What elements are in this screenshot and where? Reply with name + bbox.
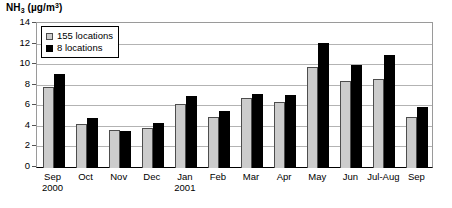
bar-dark xyxy=(384,55,395,168)
x-axis-label-month: Feb xyxy=(210,171,226,182)
y-axis-tick-mark xyxy=(32,166,36,167)
y-axis-tick-label: 10 xyxy=(0,58,30,68)
x-axis-label-month: Jan xyxy=(177,171,192,182)
bar-group xyxy=(335,23,368,168)
y-axis-tick-label: 0 xyxy=(0,161,30,171)
y-axis-tick-label: 12 xyxy=(0,38,30,48)
bar-dark xyxy=(285,95,296,168)
x-axis-tick-label: Sep xyxy=(394,171,439,182)
y-axis-title-unit-prefix: (µg/m xyxy=(25,2,55,13)
x-axis-label-year: 2001 xyxy=(162,182,207,193)
x-axis-label-month: May xyxy=(308,171,326,182)
y-axis-tick-label: 14 xyxy=(0,17,30,27)
bar-group xyxy=(136,23,169,168)
y-axis-title: NH3 (µg/m3) xyxy=(6,2,62,14)
x-axis-label-month: Jun xyxy=(343,171,358,182)
bar-dark xyxy=(153,123,164,168)
y-axis-title-species: NH xyxy=(6,2,21,13)
y-axis-tick-mark xyxy=(32,145,36,146)
x-axis-label-month: Mar xyxy=(243,171,259,182)
bar-light xyxy=(241,98,252,168)
legend-swatch-light xyxy=(46,33,53,40)
bar-light xyxy=(406,117,417,168)
bar-light xyxy=(274,102,285,168)
bar-dark xyxy=(54,74,65,168)
legend-swatch-dark xyxy=(46,45,53,52)
bar-group xyxy=(401,23,434,168)
bar-dark xyxy=(351,65,362,168)
legend-item: 8 locations xyxy=(46,42,113,54)
x-axis-label-year: 2000 xyxy=(30,182,75,193)
chart-figure: NH3 (µg/m3) 02468101214 Sep2000OctNovDec… xyxy=(0,0,452,208)
legend-label: 8 locations xyxy=(57,42,102,54)
bar-light xyxy=(175,104,186,168)
y-axis-tick-label: 6 xyxy=(0,99,30,109)
bar-dark xyxy=(219,111,230,168)
y-axis-title-unit-suffix: ) xyxy=(59,2,62,13)
x-axis-label-month: Dec xyxy=(143,171,160,182)
bar-light xyxy=(307,67,318,168)
x-axis-label-month: Apr xyxy=(277,171,292,182)
y-axis-tick-mark xyxy=(32,84,36,85)
bar-dark xyxy=(120,131,131,168)
bar-dark xyxy=(87,118,98,168)
bar-dark xyxy=(318,43,329,168)
x-axis-label-month: Sep xyxy=(44,171,61,182)
y-axis-tick-mark xyxy=(32,43,36,44)
y-axis-tick-label: 4 xyxy=(0,120,30,130)
bar-group xyxy=(269,23,302,168)
bar-dark xyxy=(417,107,428,168)
bar-group xyxy=(302,23,335,168)
bar-light xyxy=(373,79,384,168)
bar-light xyxy=(208,117,219,168)
bar-group xyxy=(236,23,269,168)
bar-light xyxy=(142,128,153,168)
y-axis-tick-mark xyxy=(32,63,36,64)
bar-group xyxy=(368,23,401,168)
y-axis-tick-mark xyxy=(32,104,36,105)
y-axis-tick-label: 2 xyxy=(0,140,30,150)
bar-dark xyxy=(252,94,263,168)
legend-label: 155 locations xyxy=(57,30,113,42)
bar-light xyxy=(109,130,120,168)
y-axis-tick-mark xyxy=(32,125,36,126)
bar-light xyxy=(340,81,351,168)
y-axis-tick-mark xyxy=(32,22,36,23)
y-axis-tick-label: 8 xyxy=(0,79,30,89)
bar-light xyxy=(76,124,87,168)
legend-item: 155 locations xyxy=(46,30,113,42)
x-axis-label-month: Nov xyxy=(110,171,127,182)
x-axis-label-month: Sep xyxy=(408,171,425,182)
bar-group xyxy=(202,23,235,168)
x-axis-label-month: Oct xyxy=(78,171,93,182)
chart-legend: 155 locations8 locations xyxy=(41,26,119,58)
bar-dark xyxy=(186,96,197,168)
bar-light xyxy=(43,87,54,168)
bar-group xyxy=(169,23,202,168)
